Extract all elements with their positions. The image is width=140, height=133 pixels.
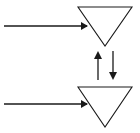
diagram-canvas [0, 0, 140, 133]
canvas-background [0, 0, 140, 133]
diagram-svg [0, 0, 140, 133]
